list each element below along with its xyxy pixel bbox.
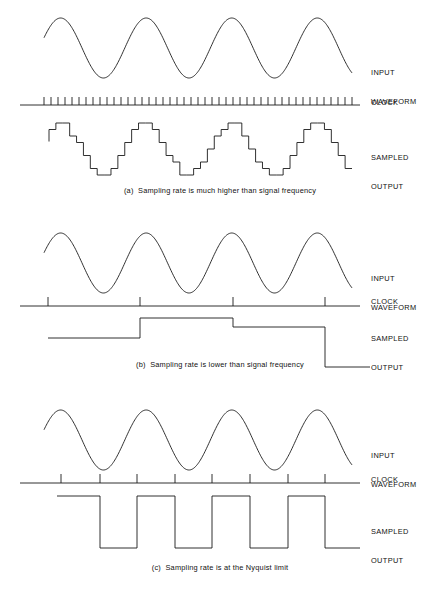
label-clock-c: CLOCK [371, 475, 398, 485]
label-sampled-line1: SAMPLED [371, 527, 409, 537]
label-sampled-output-c: SAMPLED OUTPUT [371, 508, 409, 585]
clock-pulse-train-c [20, 474, 360, 483]
panel-c: INPUT WAVEFORM CLOCK SAMPLED OUTPUT (c) … [0, 0, 440, 593]
input-waveform-sine-c [44, 410, 352, 470]
sampling-rate-figure: INPUT WAVEFORM CLOCK SAMPLED OUTPUT (a) … [0, 0, 440, 593]
label-input-waveform-c: INPUT WAVEFORM [371, 432, 417, 509]
label-input-line1: INPUT [371, 451, 417, 461]
sampled-output-square-c [57, 496, 360, 548]
caption-panel-c: (c) Sampling rate is at the Nyquist limi… [0, 563, 440, 572]
